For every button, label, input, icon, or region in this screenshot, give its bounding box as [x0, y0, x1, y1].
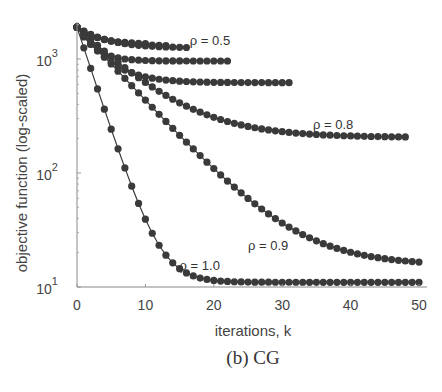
data-point: [183, 139, 190, 146]
data-point: [128, 41, 135, 48]
data-point: [292, 129, 299, 136]
data-point: [176, 132, 183, 139]
data-point: [265, 210, 272, 217]
data-point: [238, 278, 245, 285]
data-point: [231, 120, 238, 127]
y-tick-label: 103: [36, 47, 58, 69]
data-point: [340, 132, 347, 139]
data-point: [231, 183, 238, 190]
data-point: [87, 65, 94, 72]
data-point: [101, 36, 108, 43]
data-point: [135, 200, 142, 207]
data-point: [361, 252, 368, 259]
data-point: [388, 279, 395, 286]
data-point: [183, 103, 190, 110]
data-point: [272, 127, 279, 134]
data-point: [94, 46, 101, 53]
data-point: [320, 131, 327, 138]
data-point: [155, 43, 162, 50]
data-point: [333, 279, 340, 286]
data-point: [210, 57, 217, 64]
data-point: [415, 258, 422, 265]
data-point: [381, 255, 388, 262]
series-annotation: ρ = 0.9: [248, 238, 288, 253]
x-tick-label: 0: [73, 297, 81, 313]
data-point: [299, 130, 306, 137]
data-point: [265, 279, 272, 286]
data-point: [292, 227, 299, 234]
data-point: [368, 133, 375, 140]
data-point: [210, 79, 217, 86]
data-point: [169, 96, 176, 103]
data-point: [121, 55, 128, 62]
data-point: [176, 78, 183, 85]
data-point: [306, 234, 313, 241]
data-point: [381, 279, 388, 286]
data-point: [285, 79, 292, 86]
data-point: [279, 79, 286, 86]
data-point: [197, 78, 204, 85]
data-point: [238, 79, 245, 86]
series-annotation: ρ = 1.0: [180, 258, 220, 273]
data-point: [155, 88, 162, 95]
data-point: [306, 279, 313, 286]
data-point: [285, 129, 292, 136]
data-point: [183, 78, 190, 85]
data-point: [162, 118, 169, 125]
data-point: [80, 31, 87, 38]
data-point: [108, 37, 115, 44]
data-point: [128, 183, 135, 190]
data-point: [210, 114, 217, 121]
data-point: [217, 79, 224, 86]
data-point: [292, 279, 299, 286]
data-point: [190, 57, 197, 64]
data-point: [114, 59, 121, 66]
data-point: [121, 40, 128, 47]
data-point: [395, 279, 402, 286]
data-point: [231, 79, 238, 86]
data-point: [272, 215, 279, 222]
data-point: [244, 195, 251, 202]
data-point: [149, 57, 156, 64]
data-point: [142, 57, 149, 64]
data-point: [108, 53, 115, 60]
data-point: [203, 79, 210, 86]
data-point: [114, 145, 121, 152]
data-point: [354, 250, 361, 257]
data-point: [210, 165, 217, 172]
data-point: [347, 249, 354, 256]
data-point: [142, 79, 149, 86]
data-point: [101, 106, 108, 113]
data-point: [361, 279, 368, 286]
data-point: [258, 205, 265, 212]
annotations: ρ = 0.5ρ = 0.8ρ = 0.9ρ = 1.0: [180, 33, 354, 273]
data-point: [395, 257, 402, 264]
data-point: [272, 79, 279, 86]
data-point: [135, 42, 142, 49]
data-point: [388, 133, 395, 140]
data-point: [94, 85, 101, 92]
data-point: [155, 242, 162, 249]
data-point: [326, 279, 333, 286]
data-point: [231, 278, 238, 285]
y-tick-label: 101: [36, 275, 58, 297]
data-point: [265, 126, 272, 133]
data-point: [142, 96, 149, 103]
data-point: [224, 278, 231, 285]
data-point: [402, 133, 409, 140]
data-point: [285, 279, 292, 286]
data-point: [135, 57, 142, 64]
data-point: [128, 56, 135, 63]
data-point: [169, 259, 176, 266]
data-point: [155, 111, 162, 118]
data-point: [183, 57, 190, 64]
data-point: [197, 109, 204, 116]
data-point: [347, 132, 354, 139]
data-point: [299, 231, 306, 238]
data-point: [354, 133, 361, 140]
data-point: [299, 279, 306, 286]
data-point: [128, 82, 135, 89]
data-point: [162, 43, 169, 50]
chart: 01020304050101102103 ρ = 0.5ρ = 0.8ρ = 0…: [0, 0, 442, 392]
x-tick-label: 40: [343, 297, 359, 313]
